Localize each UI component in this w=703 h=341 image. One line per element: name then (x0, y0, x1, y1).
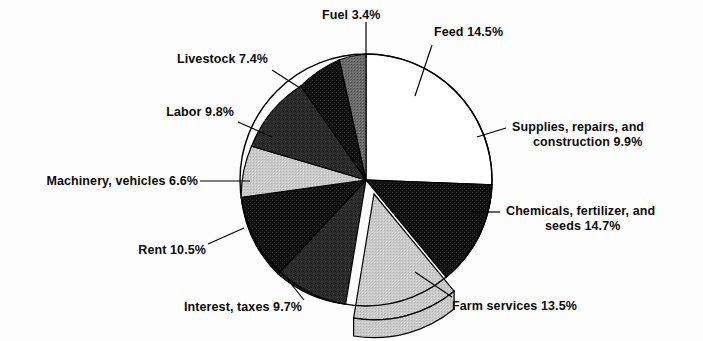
label-interest-taxes: Interest, taxes 9.7% (124, 300, 302, 315)
label-feed: Feed 14.5% (434, 25, 503, 40)
label-supplies-line1: Supplies, repairs, and (512, 120, 644, 135)
label-labor: Labor 9.8% (100, 105, 234, 120)
label-machinery: Machinery, vehicles 6.6% (10, 174, 198, 189)
label-fuel: Fuel 3.4% (322, 8, 381, 23)
label-rent: Rent 10.5% (60, 243, 206, 258)
pie-chart-figure: Fuel 3.4% Feed 14.5% Supplies, repairs, … (0, 0, 703, 341)
label-farm-services: Farm services 13.5% (452, 299, 577, 314)
leader-line-livestock (272, 70, 300, 88)
label-supplies-line2: construction 9.9% (533, 135, 642, 150)
pie-chart-canvas (0, 0, 703, 341)
leader-line-rent (208, 228, 244, 244)
pie-slices (240, 54, 492, 338)
label-chemicals-line1: Chemicals, fertilizer, and (506, 204, 655, 219)
label-livestock: Livestock 7.4% (124, 52, 268, 67)
label-chemicals-line2: seeds 14.7% (545, 219, 620, 234)
